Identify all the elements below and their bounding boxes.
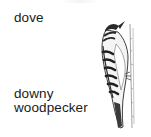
label-dove: dove [14,11,44,25]
downy-woodpecker-illustration [92,18,138,130]
bird-body-icon [102,21,131,128]
cropped-illustration-fragment [60,0,100,3]
label-line-1: downy [14,87,88,101]
label-line-2: woodpecker [14,101,88,115]
label-downy-woodpecker: downy woodpecker [14,87,88,115]
